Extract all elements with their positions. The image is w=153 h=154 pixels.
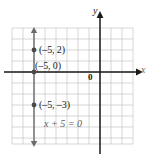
origin-label: 0	[88, 73, 93, 82]
point-label-minus5-minus3: (–5, –3)	[39, 100, 70, 110]
point-label-minus5-0: (–5, 0)	[35, 61, 61, 71]
graph-canvas	[0, 0, 153, 154]
coordinate-graph-figure: y x 0 (–5, 2) (–5, 0) (–5, –3) x + 5 = 0	[0, 0, 153, 154]
point-label-minus5-2: (–5, 2)	[39, 45, 65, 55]
point-marker	[32, 103, 37, 108]
plotted-line-x-equals-minus-5	[31, 27, 37, 147]
point-marker	[32, 48, 37, 53]
y-axis-label: y	[93, 6, 97, 16]
equation-label: x + 5 = 0	[44, 119, 82, 129]
x-axis-label: x	[141, 65, 145, 75]
y-axis	[97, 11, 104, 154]
